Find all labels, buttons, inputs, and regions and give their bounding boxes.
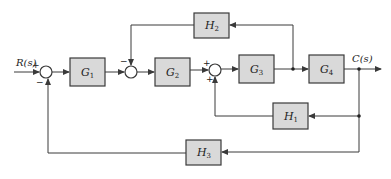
block-g4: G4	[309, 55, 344, 83]
summing-junction-2	[125, 66, 137, 78]
s3-plus-top-sign: +	[203, 58, 211, 68]
block-diagram: + − − + + R(s) C(s) G1 G2 G3 G4 H1 H2 H3	[0, 0, 391, 179]
block-h2: H2	[194, 13, 229, 38]
block-g3: G3	[239, 55, 274, 83]
output-label: C(s)	[352, 53, 373, 64]
s1-minus-sign: −	[36, 77, 44, 87]
s2-minus-sign: −	[120, 56, 128, 66]
input-label: R(s)	[15, 57, 37, 68]
branch-point-output	[357, 67, 361, 71]
h3-feedback-out-wire	[48, 79, 186, 153]
branch-point-h1	[357, 114, 361, 118]
branch-point-g3	[291, 67, 295, 71]
block-g1: G1	[70, 58, 105, 86]
s3-plus-bottom-sign: +	[206, 74, 214, 84]
block-g2: G2	[155, 58, 190, 86]
block-h3: H3	[186, 140, 221, 165]
block-h1: H1	[273, 103, 308, 129]
